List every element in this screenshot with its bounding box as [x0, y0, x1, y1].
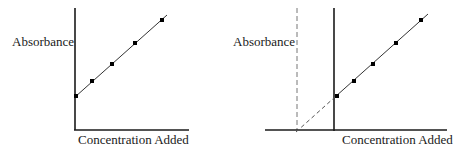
data-point — [371, 62, 375, 66]
left-chart — [74, 8, 189, 130]
data-point — [352, 79, 356, 83]
left-fit-line — [75, 15, 167, 97]
right-y-axis-label: Absorbance — [233, 35, 295, 49]
left-y-axis-label: Absorbance — [12, 35, 74, 49]
left-x-axis-label: Concentration Added — [78, 133, 189, 147]
figure — [0, 0, 455, 152]
data-point — [110, 62, 114, 66]
data-point — [419, 18, 423, 22]
right-fit-line — [335, 14, 428, 97]
right-extrapolation-dashed — [296, 97, 335, 132]
data-point — [74, 94, 78, 98]
data-point — [394, 41, 398, 45]
right-chart — [265, 8, 447, 132]
data-point — [90, 79, 94, 83]
data-point — [335, 94, 339, 98]
data-point — [160, 18, 164, 22]
data-point — [133, 41, 137, 45]
right-x-axis-label: Concentration Added — [342, 133, 453, 147]
